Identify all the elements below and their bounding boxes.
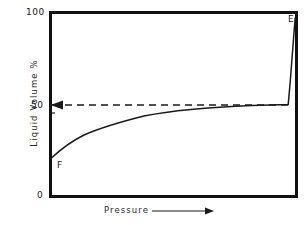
y-axis-tick-label-100: 100	[26, 7, 45, 17]
y-axis-title: Liquid Volume %	[29, 43, 39, 163]
chart-figure: 100 50 0 Liquid Volume % Pressure E F	[0, 0, 307, 225]
x-axis-arrow-head	[205, 208, 214, 215]
data-point-label-f: F	[57, 160, 62, 170]
y-axis-tick-label-0: 0	[37, 190, 43, 200]
data-point-label-e: E	[288, 14, 294, 24]
x-axis-title: Pressure	[104, 205, 149, 215]
chart-plot-area	[0, 0, 307, 225]
